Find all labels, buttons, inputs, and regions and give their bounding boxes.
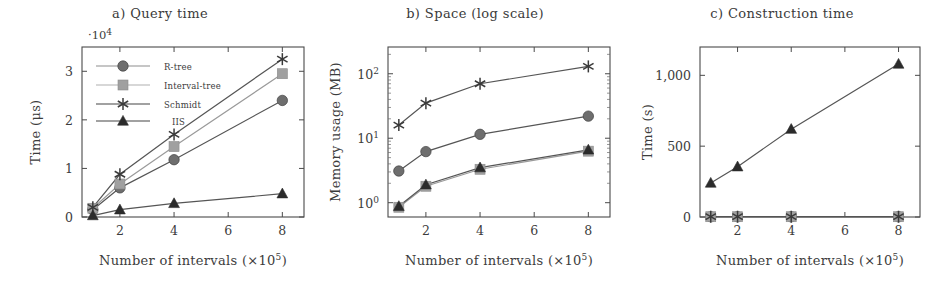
datapoint-iis (786, 124, 797, 134)
datapoint-r-tree (169, 154, 179, 164)
x-tick-label: 4 (476, 223, 484, 238)
datapoint-schmidt (169, 128, 179, 140)
legend-label: Schmidt (164, 100, 201, 110)
y-tick-label: 3 (65, 64, 73, 79)
legend-label: IIS (172, 117, 185, 127)
panel-space-log-scale: b) Space (log scale) 2468100101102Memory… (310, 0, 640, 290)
x-axis-title: Number of intervals (×105) (99, 252, 287, 268)
x-tick-label: 2 (734, 223, 742, 238)
panel-a-plot: 24680123Time (μs)Number of intervals (×1… (0, 0, 320, 290)
x-tick-label: 6 (530, 223, 538, 238)
legend: R-treeInterval-treeSchmidtIIS (96, 61, 221, 127)
panel-query-time: a) Query time 24680123Time (μs)Number of… (0, 0, 320, 290)
series-line-schmidt (399, 66, 589, 125)
series-line-iis (399, 150, 589, 206)
datapoint-interval-tree (115, 179, 125, 189)
series-line-r-tree (399, 116, 589, 171)
legend-marker-circle (118, 61, 128, 71)
datapoint-r-tree (475, 129, 485, 139)
legend-marker-triangle (118, 115, 129, 125)
datapoint-schmidt (421, 97, 431, 109)
y-tick-label: 102 (357, 66, 379, 82)
y-tick-label: 1,000 (655, 68, 691, 83)
datapoint-r-tree (421, 146, 431, 156)
datapoint-iis (705, 177, 716, 187)
x-tick-label: 8 (584, 223, 592, 238)
legend-label: Interval-tree (164, 81, 221, 91)
plot-frame (700, 47, 920, 217)
figure-three-panel-benchmark: a) Query time 24680123Time (μs)Number of… (0, 0, 944, 290)
y-tick-label: 2 (65, 113, 73, 128)
y-axis-title: Time (s) (640, 104, 655, 160)
legend-marker-square (118, 80, 128, 90)
panel-b-plot: 2468100101102Memory usage (MB)Number of … (310, 0, 640, 290)
x-axis-title: Number of intervals (×105) (716, 252, 904, 268)
x-tick-label: 8 (895, 223, 903, 238)
datapoint-iis (893, 58, 904, 68)
datapoint-r-tree (583, 111, 593, 121)
datapoint-schmidt (277, 53, 287, 65)
datapoint-interval-tree (277, 69, 287, 79)
legend-label: R-tree (164, 62, 192, 72)
datapoint-interval-tree (169, 142, 179, 152)
panel-construction-time: c) Construction time 246805001,000Time (… (620, 0, 944, 290)
datapoint-iis (277, 188, 288, 198)
y-tick-label: 1 (65, 161, 73, 176)
x-tick-label: 6 (841, 223, 849, 238)
x-axis-title: Number of intervals (×105) (405, 252, 593, 268)
y-axis-multiplier: ·104 (88, 27, 112, 42)
y-axis-title: Memory usage (MB) (328, 62, 343, 202)
y-tick-label: 100 (357, 195, 379, 211)
datapoint-iis (732, 161, 743, 171)
x-tick-label: 2 (422, 223, 430, 238)
y-tick-label: 101 (357, 130, 379, 146)
panel-c-plot: 246805001,000Time (s)Number of intervals… (620, 0, 944, 290)
x-tick-label: 2 (116, 223, 124, 238)
y-tick-label: 500 (667, 139, 691, 154)
series-line-r-tree (93, 100, 283, 209)
datapoint-r-tree (394, 166, 404, 176)
x-tick-label: 4 (787, 223, 795, 238)
x-tick-label: 8 (278, 223, 286, 238)
x-tick-label: 4 (170, 223, 178, 238)
x-tick-label: 6 (224, 223, 232, 238)
y-tick-label: 0 (683, 210, 691, 225)
datapoint-r-tree (277, 95, 287, 105)
datapoint-schmidt (394, 119, 404, 131)
y-axis-title: Time (μs) (28, 100, 43, 165)
y-tick-label: 0 (65, 210, 73, 225)
series-line-interval-tree (399, 151, 589, 207)
